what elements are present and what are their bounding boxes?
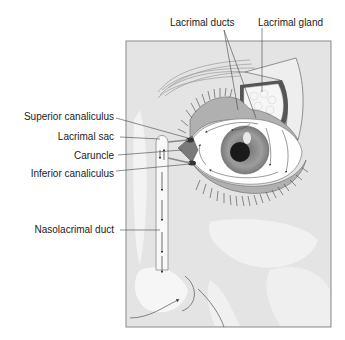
label-caruncle: Caruncle: [74, 150, 114, 162]
label-lacrimal-sac: Lacrimal sac: [58, 131, 114, 143]
corneal-reflection: [243, 132, 251, 144]
label-superior-canaliculus: Superior canaliculus: [24, 111, 114, 123]
label-nasolacrimal-duct: Nasolacrimal duct: [35, 224, 114, 236]
label-lacrimal-gland: Lacrimal gland: [258, 17, 323, 29]
pupil: [230, 142, 250, 162]
label-inferior-canaliculus: Inferior canaliculus: [31, 168, 114, 180]
label-lacrimal-ducts: Lacrimal ducts: [170, 17, 234, 29]
